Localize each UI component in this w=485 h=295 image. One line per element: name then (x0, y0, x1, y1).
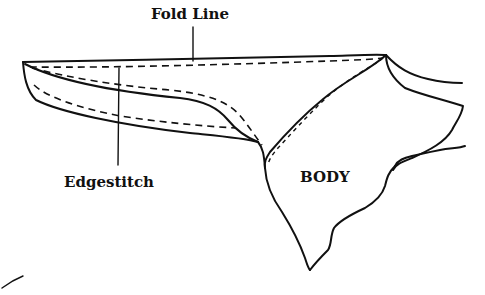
edgestitch-neck (268, 58, 383, 164)
stray-curve (2, 276, 23, 288)
body-neck-curve (265, 55, 386, 168)
body-label: BODY (300, 168, 350, 186)
fold-line-label: Fold Line (151, 5, 229, 23)
shoulder-edge (386, 55, 462, 83)
sewing-diagram: Fold Line Edgestitch BODY (0, 0, 485, 295)
edgestitch-label: Edgestitch (64, 173, 154, 191)
edgestitch-leader (118, 68, 119, 165)
edgestitch-lower (34, 85, 236, 128)
